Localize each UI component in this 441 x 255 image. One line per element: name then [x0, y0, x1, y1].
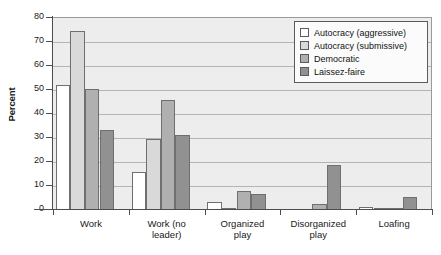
legend-item: Laissez-faire	[300, 65, 422, 78]
chart-legend: Autocracy (aggressive)Autocracy (submiss…	[294, 21, 428, 83]
y-axis-tick-label: 20	[22, 156, 44, 165]
x-axis-group-label: Organizedplay	[205, 218, 281, 240]
gridline	[53, 90, 431, 91]
y-axis-tick-label: 50	[22, 84, 44, 93]
y-axis-tick	[46, 185, 53, 186]
y-axis-tick-label: 40	[22, 108, 44, 117]
legend-item: Autocracy (submissive)	[300, 39, 422, 52]
x-axis-tick	[205, 209, 206, 215]
x-axis-group-label-line: play	[205, 229, 281, 240]
x-axis-group-label-line: Organized	[205, 218, 281, 229]
legend-item: Autocracy (aggressive)	[300, 26, 422, 39]
legend-label: Democratic	[314, 54, 360, 64]
x-axis-line	[34, 209, 433, 210]
x-axis-tick	[53, 209, 54, 215]
y-axis-tick-label: 30	[22, 132, 44, 141]
bar	[100, 130, 115, 209]
x-axis-group-label-line: Work	[53, 218, 129, 229]
y-axis-tick-label: 80	[22, 12, 44, 21]
y-axis-title: Percent	[2, 0, 20, 209]
legend-swatch-icon	[300, 54, 309, 63]
legend-label: Autocracy (submissive)	[314, 41, 407, 51]
gridline	[53, 114, 431, 115]
bar	[132, 172, 147, 209]
bar	[56, 85, 71, 209]
legend-swatch-icon	[300, 41, 309, 50]
y-axis-tick	[46, 161, 53, 162]
y-axis-tick	[46, 209, 53, 210]
y-axis-tick	[46, 137, 53, 138]
x-axis-group-label-line: play	[280, 229, 356, 240]
x-axis-group-label-line: leader)	[129, 229, 205, 240]
x-axis-group-label: Disorganizedplay	[280, 218, 356, 240]
bar	[327, 165, 342, 209]
y-axis-tick-label: 60	[22, 60, 44, 69]
bar	[175, 135, 190, 209]
bar	[207, 202, 222, 209]
legend-item: Democratic	[300, 52, 422, 65]
x-axis-group-label-line: Loafing	[356, 218, 432, 229]
y-axis-tick-label: 10	[22, 180, 44, 189]
bar-chart: Percent 01020304050607080 WorkWork (nole…	[0, 0, 441, 255]
y-axis-tick	[46, 41, 53, 42]
y-axis-tick	[46, 65, 53, 66]
y-axis-tick	[46, 89, 53, 90]
legend-swatch-icon	[300, 67, 309, 76]
x-axis-group-label: Work (noleader)	[129, 218, 205, 240]
bar	[237, 191, 252, 209]
bar	[161, 100, 176, 209]
y-axis-tick-label: 70	[22, 36, 44, 45]
bar	[403, 197, 418, 209]
bar	[70, 31, 85, 209]
x-axis-tick	[356, 209, 357, 215]
y-axis-title-label: Percent	[6, 87, 17, 121]
x-axis-tick	[129, 209, 130, 215]
x-axis-group-label-line: Work (no	[129, 218, 205, 229]
legend-swatch-icon	[300, 28, 309, 37]
bar	[146, 139, 161, 209]
bar	[85, 89, 100, 209]
x-axis-group-label: Loafing	[356, 218, 432, 229]
x-axis-group-label-line: Disorganized	[280, 218, 356, 229]
x-axis-tick	[280, 209, 281, 215]
y-axis-tick-labels: 01020304050607080	[20, 0, 44, 255]
bar	[251, 194, 266, 209]
legend-label: Autocracy (aggressive)	[314, 28, 406, 38]
y-axis-tick	[46, 17, 53, 18]
legend-label: Laissez-faire	[314, 67, 365, 77]
x-axis-group-label: Work	[53, 218, 129, 229]
x-axis-tick	[432, 209, 433, 215]
y-axis-tick	[46, 113, 53, 114]
